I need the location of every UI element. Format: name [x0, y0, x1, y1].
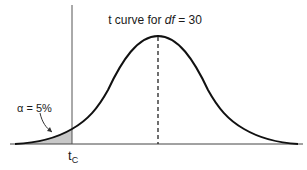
- t-curve: [15, 36, 298, 144]
- t-distribution-chart: t curve for df = 30 α = 5% tC: [0, 0, 307, 170]
- critical-value-label: tC: [68, 148, 79, 165]
- shaded-tail-area: [15, 129, 72, 144]
- chart-title: t curve for df = 30: [108, 13, 202, 27]
- alpha-label: α = 5%: [17, 102, 52, 114]
